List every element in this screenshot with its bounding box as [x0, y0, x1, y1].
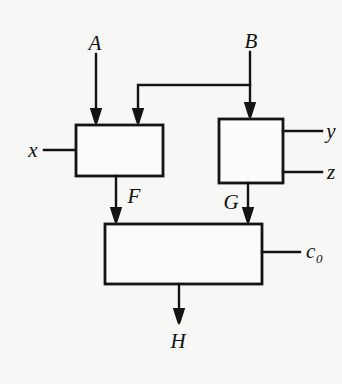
circuit-block-diagram: A B x y z F G c 0 H [0, 0, 342, 384]
wire-b-branch [138, 85, 250, 110]
label-signal-g: G [223, 190, 238, 214]
bottom-block [105, 224, 262, 284]
label-signal-f: F [127, 184, 141, 208]
label-output-h: H [169, 329, 187, 353]
label-input-c0-subscript: 0 [316, 251, 323, 266]
arrowhead-b-into-right-block [244, 102, 256, 119]
label-input-a: A [87, 31, 102, 55]
label-output-z: z [326, 160, 335, 184]
arrowhead-f-into-bottom-block [110, 207, 122, 224]
arrowhead-g-into-bottom-block [242, 207, 254, 224]
label-input-c0: c [306, 239, 316, 263]
label-input-b: B [245, 29, 258, 53]
arrowhead-b-branch-into-left-block [132, 108, 144, 125]
label-input-x: x [27, 138, 38, 162]
right-block [219, 119, 283, 183]
arrowhead-h-output [173, 308, 185, 325]
circuit-diagram-canvas: A B x y z F G c 0 H [0, 0, 342, 384]
left-block [76, 125, 163, 176]
label-output-y: y [324, 119, 336, 143]
arrowhead-a-into-left-block [90, 108, 102, 125]
